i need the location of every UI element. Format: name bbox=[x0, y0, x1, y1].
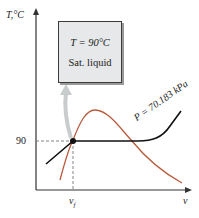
y-axis-label: T,°C bbox=[6, 9, 24, 20]
y-axis-label-text: T,°C bbox=[6, 9, 24, 20]
pointer-arrow bbox=[65, 92, 71, 138]
x-axis-arrow-icon bbox=[185, 187, 192, 193]
pointer-arrow-head-icon bbox=[60, 84, 72, 95]
x-axis-label: v bbox=[183, 195, 187, 206]
state-phase: Sat. liquid bbox=[68, 57, 111, 68]
y-tick-90: 90 bbox=[16, 135, 26, 146]
y-axis-arrow-icon bbox=[33, 8, 39, 15]
state-temperature: T = 90°C bbox=[70, 37, 110, 48]
x-tick-vf: vf bbox=[69, 195, 75, 209]
state-point bbox=[70, 138, 76, 144]
x-tick-sub: f bbox=[73, 201, 75, 209]
state-info-box: T = 90°C Sat. liquid bbox=[58, 21, 122, 83]
saturation-dome-curve bbox=[60, 110, 182, 183]
